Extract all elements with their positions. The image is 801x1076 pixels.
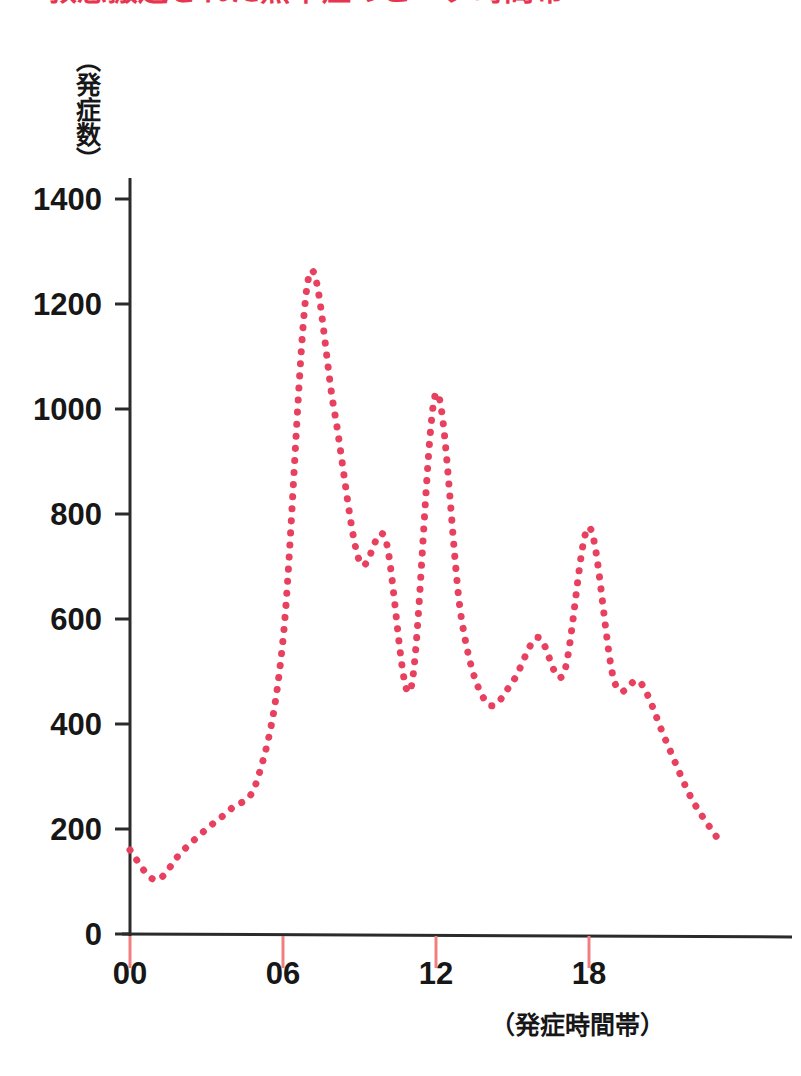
x-tick-label-06: 06: [248, 958, 318, 989]
chart-plot-area: [0, 0, 801, 1076]
y-tick-label-0: 0: [10, 919, 102, 950]
y-tick-label-1200: 1200: [10, 289, 102, 320]
x-axis-line: [122, 934, 792, 937]
x-axis-tick-marks: [130, 936, 589, 968]
data-series-line: [130, 270, 717, 880]
y-tick-label-1400: 1400: [10, 184, 102, 215]
x-tick-label-12: 12: [401, 958, 471, 989]
y-tick-label-200: 200: [10, 814, 102, 845]
x-axis-caption: （発症時間帯）: [490, 1005, 665, 1041]
chart-svg: [0, 0, 801, 1076]
y-tick-label-600: 600: [10, 604, 102, 635]
y-tick-label-1000: 1000: [10, 394, 102, 425]
chart-page: ●救急搬送された熱中症のピーク時間帯 （発症数）: [0, 0, 801, 1076]
x-tick-label-00: 00: [95, 958, 165, 989]
x-tick-label-18: 18: [554, 958, 624, 989]
y-tick-label-400: 400: [10, 709, 102, 740]
y-tick-label-800: 800: [10, 499, 102, 530]
